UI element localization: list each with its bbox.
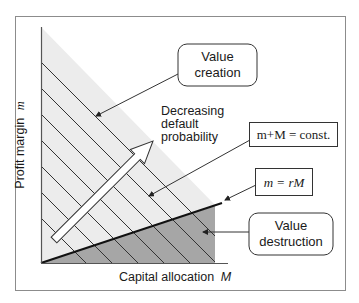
x-axis-label: Capital allocation M bbox=[119, 270, 232, 284]
value-destruction-line2: destruction bbox=[259, 234, 323, 249]
value-creation-line1: Value bbox=[201, 49, 233, 64]
y-axis-label: Profit margin m bbox=[13, 101, 27, 188]
value-creation-line2: creation bbox=[194, 65, 240, 80]
value-creation-diagram: Profit margin m Capital allocation M Val… bbox=[0, 0, 359, 303]
break-even-label: m = rM bbox=[264, 175, 306, 190]
arrow-label-line3: probability bbox=[161, 130, 219, 144]
iso-line-label: m+M = const. bbox=[257, 127, 331, 142]
arrow-label-line2: default bbox=[161, 117, 199, 131]
arrow-label-line1: Decreasing bbox=[161, 104, 224, 118]
value-destruction-line1: Value bbox=[275, 218, 307, 233]
